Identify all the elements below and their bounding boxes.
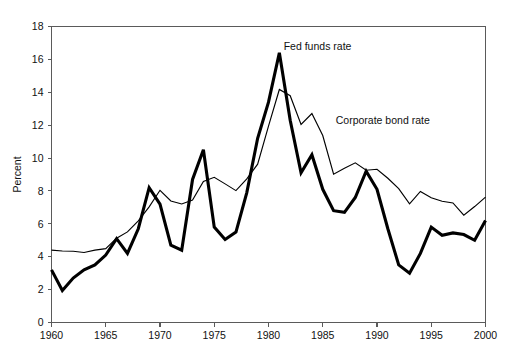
series-line-fed-funds-rate bbox=[52, 53, 486, 291]
y-tick-label: 0 bbox=[38, 316, 44, 328]
series-annotations: Fed funds rateCorporate bond rate bbox=[284, 40, 430, 126]
y-tick-label: 8 bbox=[38, 185, 44, 197]
y-axis-ticks: 024681012141618 bbox=[32, 20, 52, 328]
y-tick-label: 6 bbox=[38, 218, 44, 230]
chart-container: 024681012141618 196019651970197519801985… bbox=[0, 0, 511, 364]
x-tick-label: 1965 bbox=[94, 329, 118, 341]
annotation-corporate-bond-rate: Corporate bond rate bbox=[336, 114, 430, 126]
y-tick-label: 18 bbox=[32, 20, 44, 32]
x-tick-label: 1990 bbox=[365, 329, 389, 341]
x-axis-ticks: 196019651970197519801985199019952000 bbox=[40, 323, 498, 341]
series-layer bbox=[52, 53, 486, 291]
y-tick-label: 12 bbox=[32, 119, 44, 131]
y-axis-title: Percent bbox=[11, 156, 23, 192]
x-tick-label: 2000 bbox=[474, 329, 498, 341]
y-tick-label: 4 bbox=[38, 250, 44, 262]
annotation-fed-funds-rate: Fed funds rate bbox=[284, 40, 352, 52]
x-tick-label: 1975 bbox=[203, 329, 227, 341]
x-tick-label: 1995 bbox=[420, 329, 444, 341]
line-chart: 024681012141618 196019651970197519801985… bbox=[0, 0, 511, 364]
y-tick-label: 2 bbox=[38, 283, 44, 295]
y-tick-label: 16 bbox=[32, 53, 44, 65]
x-tick-label: 1970 bbox=[148, 329, 172, 341]
y-tick-label: 10 bbox=[32, 152, 44, 164]
plot-frame bbox=[52, 27, 486, 323]
x-tick-label: 1960 bbox=[40, 329, 64, 341]
y-tick-label: 14 bbox=[32, 86, 44, 98]
x-tick-label: 1985 bbox=[311, 329, 335, 341]
x-tick-label: 1980 bbox=[257, 329, 281, 341]
